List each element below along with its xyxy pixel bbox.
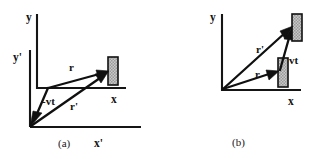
panel-a-caption: (a) bbox=[58, 137, 71, 150]
panel-a-label-x: x bbox=[111, 93, 117, 105]
panel-a-label-x-prime: x' bbox=[94, 137, 103, 149]
panel-b-label-y: y bbox=[210, 11, 216, 24]
panel-a-label-y: y bbox=[26, 11, 32, 24]
panel-a-label-y-prime: y' bbox=[13, 51, 22, 64]
panel-a-label-r: r bbox=[69, 61, 74, 73]
panel-b-label-x: x bbox=[288, 95, 294, 107]
panel-b-label-vt: vt bbox=[289, 54, 299, 66]
panel-b-label-r: r bbox=[255, 68, 260, 80]
panel-a-particle-box bbox=[108, 57, 118, 85]
panel-a-label-minus-vt: -vt bbox=[42, 95, 55, 107]
panel-b-caption: (b) bbox=[232, 136, 245, 149]
panel-b-label-r-prime: r' bbox=[256, 43, 264, 55]
panel-b-particle-box-displaced bbox=[292, 14, 302, 41]
figure-canvas: y x y' x' r r' -vt (a) bbox=[0, 0, 317, 159]
physics-figure: y x y' x' r r' -vt (a) bbox=[0, 0, 317, 159]
panel-a-label-r-prime: r' bbox=[70, 100, 78, 112]
